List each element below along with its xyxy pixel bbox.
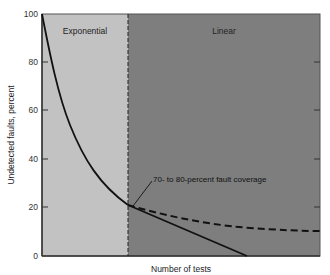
ytick-60: 60 bbox=[29, 105, 39, 115]
ytick-40: 40 bbox=[29, 154, 39, 164]
exponential-region bbox=[42, 14, 128, 256]
x-axis-title: Number of tests bbox=[151, 264, 211, 274]
ytick-0: 0 bbox=[33, 251, 38, 261]
y-axis-title: Undetected faults, percent bbox=[6, 85, 16, 185]
linear-region bbox=[128, 14, 320, 256]
annotation-text: 70- to 80-percent fault coverage bbox=[153, 175, 267, 184]
ytick-100: 100 bbox=[24, 9, 38, 19]
ytick-80: 80 bbox=[29, 57, 39, 67]
ytick-20: 20 bbox=[29, 202, 39, 212]
fault-coverage-chart: 100 80 60 40 20 0 Exponential Linear 70-… bbox=[0, 0, 330, 275]
exponential-label: Exponential bbox=[63, 26, 108, 36]
linear-label: Linear bbox=[212, 26, 236, 36]
